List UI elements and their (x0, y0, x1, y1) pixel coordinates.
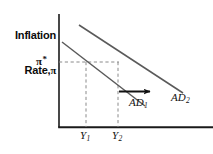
pi-star-mark: * (43, 54, 48, 64)
ad1-subscript: 1 (144, 101, 148, 110)
ad2-curve (79, 25, 183, 93)
aggregate-demand-chart: Inflation Rate,π Aggregate Output π* Y1 … (0, 0, 213, 154)
curve-label-ad1: AD1 (129, 97, 147, 109)
x-tick-label-y2: Y2 (112, 130, 122, 142)
pi-icon: π (50, 65, 56, 76)
ad2-subscript: 2 (186, 96, 190, 105)
y-axis-title: Inflation Rate,π (2, 6, 56, 101)
y-axis-title-line1: Inflation (2, 30, 56, 42)
ad2-base: AD (171, 91, 186, 103)
y-axis-title-line2: Rate,π (2, 65, 56, 77)
y-tick-label-pi-star: π* (36, 56, 47, 68)
x-axis-title: Aggregate Output (130, 131, 211, 154)
x-tick-label-y1: Y1 (80, 130, 90, 142)
ad1-base: AD (129, 96, 144, 108)
y2-subscript: 2 (118, 134, 122, 143)
y1-subscript: 1 (86, 134, 90, 143)
curve-label-ad2: AD2 (171, 92, 189, 104)
pi-star-symbol: π (36, 55, 42, 67)
